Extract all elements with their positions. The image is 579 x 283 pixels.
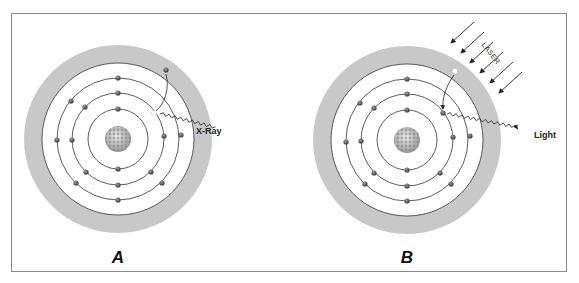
atom-diagram bbox=[0, 0, 579, 283]
excited-electron-a bbox=[163, 67, 168, 72]
electron-hole-b bbox=[452, 68, 457, 73]
xray-label: X-Ray bbox=[196, 126, 222, 136]
panel-label-a: A bbox=[112, 248, 124, 268]
electron-hole-a bbox=[151, 110, 156, 115]
atom-a bbox=[24, 45, 216, 233]
nucleus-texture-b bbox=[394, 127, 420, 153]
returned-electron-b bbox=[440, 110, 445, 115]
nucleus-texture-a bbox=[105, 126, 131, 152]
panel-label-b: B bbox=[401, 248, 413, 268]
light-label: Light bbox=[534, 130, 556, 140]
